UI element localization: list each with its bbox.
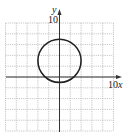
- x-axis-label: x: [117, 79, 123, 90]
- y-axis-arrow-icon: [58, 9, 62, 15]
- coordinate-plane: y 10 10 x: [0, 0, 133, 140]
- y-tick-label: 10: [48, 14, 58, 25]
- x-tick-label: 10: [108, 79, 118, 90]
